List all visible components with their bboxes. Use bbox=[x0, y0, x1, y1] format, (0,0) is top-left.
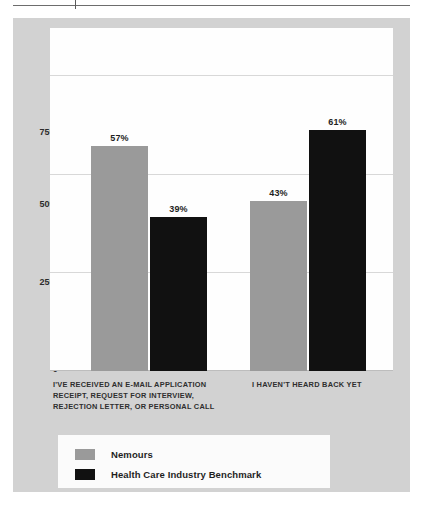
legend-item-nemours[interactable]: Nemours bbox=[75, 447, 153, 461]
category-label-1: I'VE RECEIVED AN E-MAIL APPLICATION RECE… bbox=[53, 379, 243, 412]
plot-area: 57% 39% 43% 61% bbox=[50, 28, 393, 371]
legend-label-nemours: Nemours bbox=[111, 449, 153, 460]
bar-group1-benchmark[interactable] bbox=[150, 217, 207, 371]
gridline-75 bbox=[50, 75, 393, 76]
bar-value-group1-nemours: 57% bbox=[91, 134, 148, 143]
category-label-1-line2: RECEIPT, REQUEST FOR INTERVIEW, bbox=[53, 390, 243, 401]
bar-value-group2-nemours: 43% bbox=[250, 189, 307, 198]
header-rule-tick bbox=[75, 0, 76, 9]
category-label-2: I HAVEN'T HEARD BACK YET bbox=[252, 379, 402, 390]
bar-group2-benchmark[interactable] bbox=[309, 130, 366, 371]
bar-group2-nemours[interactable] bbox=[250, 201, 307, 371]
legend: Nemours Health Care Industry Benchmark bbox=[58, 435, 330, 488]
bar-value-group1-benchmark: 39% bbox=[150, 205, 207, 214]
legend-item-benchmark[interactable]: Health Care Industry Benchmark bbox=[75, 467, 261, 481]
bar-value-group2-benchmark: 61% bbox=[309, 118, 366, 127]
category-label-1-line1: I'VE RECEIVED AN E-MAIL APPLICATION bbox=[53, 379, 243, 390]
legend-label-benchmark: Health Care Industry Benchmark bbox=[111, 469, 261, 480]
bar-group1-nemours[interactable] bbox=[91, 146, 148, 371]
category-label-1-line3: REJECTION LETTER, OR PERSONAL CALL bbox=[53, 401, 243, 412]
chart-panel: 75% 50% 25% 0 57% 39% 43% 61% I'VE RECEI… bbox=[13, 18, 410, 492]
legend-swatch-benchmark bbox=[75, 469, 95, 480]
header-rule bbox=[13, 5, 410, 6]
legend-swatch-nemours bbox=[75, 449, 95, 460]
